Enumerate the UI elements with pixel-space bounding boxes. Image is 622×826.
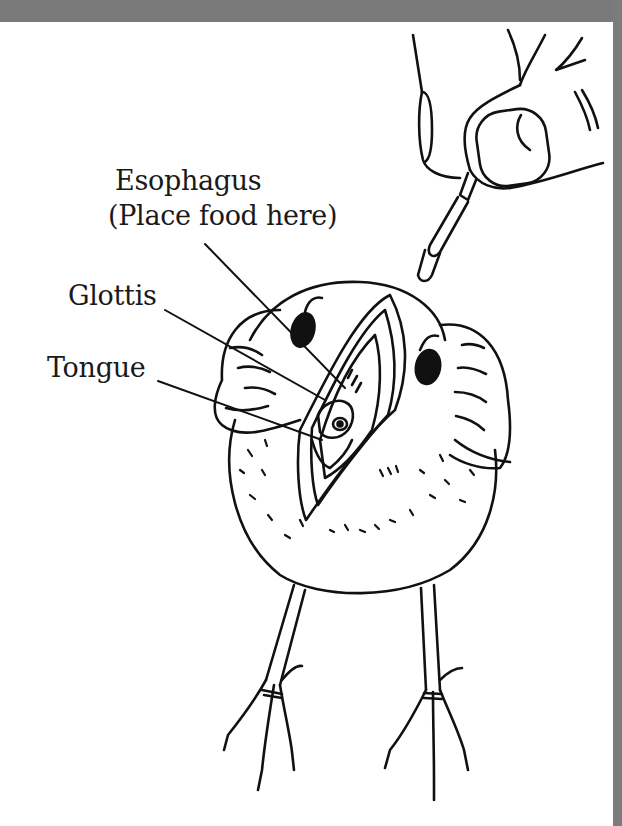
- tongue-label: Tongue: [47, 353, 145, 383]
- esophagus-leader-line: [205, 244, 345, 388]
- nestling-bird: [215, 282, 510, 800]
- esophagus-label: Esophagus: [115, 166, 261, 196]
- right-frame-band: [613, 0, 622, 826]
- bird-feeding-illustration: [0, 0, 613, 826]
- hand-illustration: [413, 30, 603, 281]
- esophagus-note-label: (Place food here): [108, 201, 337, 231]
- glottis-label: Glottis: [68, 281, 157, 311]
